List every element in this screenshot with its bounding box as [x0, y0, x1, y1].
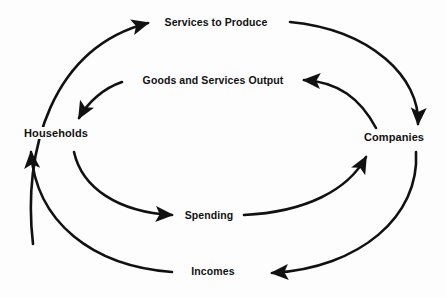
circular-flow-diagram: Households Companies Services to Produce… — [0, 0, 446, 297]
arrow-households-to-spending — [74, 152, 172, 215]
arrow-companies-to-goods-services-output — [304, 80, 376, 128]
arrow-spending-to-companies — [244, 157, 366, 215]
arrow-services-to-produce-to-companies — [290, 22, 418, 124]
node-label-companies: Companies — [361, 131, 427, 143]
arrow-goods-services-output-to-households — [79, 82, 122, 118]
node-label-households: Households — [21, 127, 91, 139]
flow-label-spending: Spending — [182, 209, 237, 221]
flow-label-goods-and-services-output: Goods and Services Output — [140, 74, 287, 86]
flow-arrows-svg — [0, 0, 446, 297]
arrow-companies-to-incomes — [272, 152, 416, 273]
flow-label-services-to-produce: Services to Produce — [162, 16, 271, 28]
flow-label-incomes: Incomes — [188, 265, 237, 277]
